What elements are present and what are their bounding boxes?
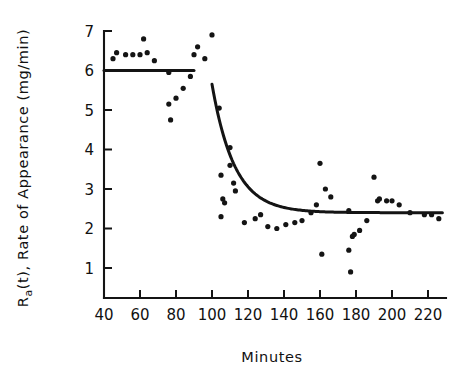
data-point: [195, 44, 200, 49]
x-axis-title: Minutes: [241, 349, 302, 365]
data-point: [346, 248, 351, 253]
fitted-curve: [212, 84, 442, 212]
y-axis-tick-label: 2: [84, 220, 94, 238]
data-point: [168, 117, 173, 122]
chart-figure: 1234567 406080100120140160180200220 Minu…: [0, 0, 468, 372]
y-axis-tick-label: 6: [84, 62, 94, 80]
data-point: [227, 163, 232, 168]
x-axis-tick-label: 160: [306, 306, 335, 324]
data-point: [258, 212, 263, 217]
data-point: [123, 52, 128, 57]
data-point: [308, 210, 313, 215]
data-point: [364, 218, 369, 223]
data-point: [253, 216, 258, 221]
data-point: [397, 202, 402, 207]
data-point: [218, 173, 223, 178]
data-point: [173, 96, 178, 101]
x-axis-tick-label: 140: [270, 306, 299, 324]
x-axis-tick-label: 120: [234, 306, 263, 324]
data-point: [209, 32, 214, 37]
scatter-plot-svg: 1234567 406080100120140160180200220 Minu…: [0, 0, 468, 372]
data-point: [346, 208, 351, 213]
x-axis-tick-labels: 406080100120140160180200220: [94, 306, 442, 324]
data-point: [429, 212, 434, 217]
y-axis-title: Ra(t), Rate of Appearance (mg/min): [15, 29, 35, 307]
y-axis-title-prefix: R: [15, 297, 31, 308]
data-point: [217, 105, 222, 110]
data-point: [265, 224, 270, 229]
y-axis-tick-label: 7: [84, 23, 94, 41]
data-point: [371, 175, 376, 180]
fitted-curves-group: [104, 71, 442, 213]
data-point: [110, 56, 115, 61]
data-point: [317, 161, 322, 166]
data-point: [314, 202, 319, 207]
data-point: [357, 228, 362, 233]
data-point: [233, 188, 238, 193]
data-point: [202, 56, 207, 61]
x-axis-tick-label: 60: [130, 306, 149, 324]
data-point: [407, 210, 412, 215]
data-point: [114, 50, 119, 55]
data-point: [130, 52, 135, 57]
y-axis-tick-label: 1: [84, 260, 94, 278]
data-points-group: [110, 32, 441, 274]
data-point: [181, 86, 186, 91]
x-axis-tick-label: 220: [414, 306, 443, 324]
data-point: [231, 180, 236, 185]
data-point: [422, 212, 427, 217]
data-point: [299, 218, 304, 223]
y-axis-tick-label: 3: [84, 181, 94, 199]
x-axis-tick-label: 80: [166, 306, 185, 324]
data-point: [436, 216, 441, 221]
x-axis-tick-label: 200: [378, 306, 407, 324]
data-point: [323, 186, 328, 191]
data-point: [348, 269, 353, 274]
data-point: [227, 145, 232, 150]
data-point: [218, 214, 223, 219]
data-point: [384, 198, 389, 203]
x-axis-tick-label: 180: [342, 306, 371, 324]
data-point: [292, 220, 297, 225]
y-axis-tick-label: 4: [84, 141, 94, 159]
data-point: [137, 52, 142, 57]
data-point: [328, 194, 333, 199]
x-axis-ticks: [104, 290, 428, 298]
y-axis-title-subscript: a: [22, 289, 35, 296]
data-point: [377, 196, 382, 201]
data-point: [191, 52, 196, 57]
data-point: [166, 70, 171, 75]
data-point: [141, 36, 146, 41]
data-point: [352, 232, 357, 237]
data-point: [222, 200, 227, 205]
data-point: [274, 226, 279, 231]
data-point: [319, 252, 324, 257]
y-axis-title-suffix: (t), Rate of Appearance (mg/min): [15, 29, 31, 289]
y-axis-tick-label: 5: [84, 102, 94, 120]
x-axis-tick-label: 40: [94, 306, 113, 324]
data-point: [283, 222, 288, 227]
data-point: [145, 50, 150, 55]
y-axis-tick-labels: 1234567: [84, 23, 94, 278]
data-point: [188, 74, 193, 79]
data-point: [152, 58, 157, 63]
x-axis-tick-label: 100: [198, 306, 227, 324]
y-axis-ticks: [104, 31, 112, 268]
data-point: [389, 198, 394, 203]
data-point: [242, 220, 247, 225]
data-point: [166, 101, 171, 106]
